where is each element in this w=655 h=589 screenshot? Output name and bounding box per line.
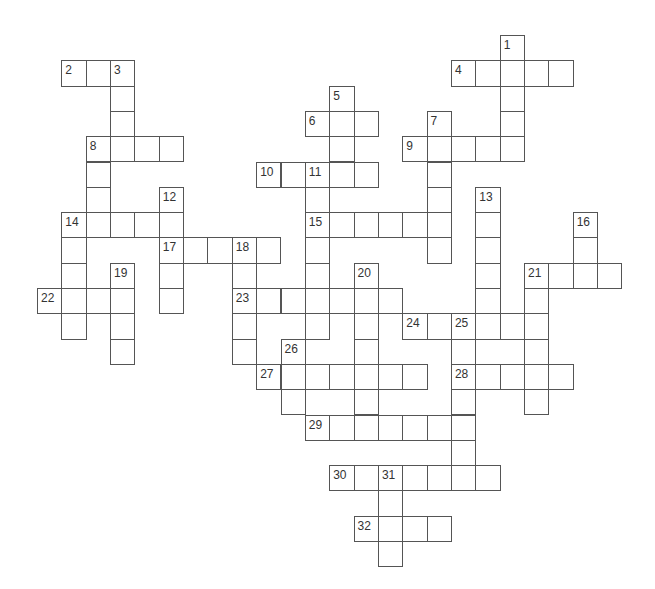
cell-letter-input[interactable]: [379, 365, 402, 389]
cell-letter-input[interactable]: [428, 213, 451, 237]
crossword-cell[interactable]: 25: [451, 313, 476, 339]
cell-letter-input[interactable]: [476, 264, 499, 288]
crossword-cell[interactable]: 31: [378, 465, 403, 491]
cell-letter-input[interactable]: [111, 213, 134, 237]
cell-letter-input[interactable]: [87, 163, 110, 187]
cell-letter-input[interactable]: [549, 365, 572, 389]
cell-letter-input[interactable]: [111, 87, 134, 111]
crossword-cell[interactable]: 11: [305, 162, 330, 188]
crossword-cell[interactable]: [500, 364, 525, 390]
cell-letter-input[interactable]: [87, 137, 110, 161]
crossword-cell[interactable]: [281, 288, 306, 314]
cell-letter-input[interactable]: [428, 188, 451, 212]
crossword-cell[interactable]: [500, 111, 525, 137]
cell-letter-input[interactable]: [476, 137, 499, 161]
cell-letter-input[interactable]: [111, 61, 134, 85]
cell-letter-input[interactable]: [574, 213, 597, 237]
cell-letter-input[interactable]: [598, 264, 621, 288]
crossword-cell[interactable]: [110, 136, 135, 162]
crossword-cell[interactable]: 27: [256, 364, 281, 390]
crossword-cell[interactable]: [61, 313, 86, 339]
cell-letter-input[interactable]: [306, 289, 329, 313]
crossword-cell[interactable]: [329, 212, 354, 238]
crossword-cell[interactable]: [61, 288, 86, 314]
crossword-cell[interactable]: [402, 415, 427, 441]
crossword-cell[interactable]: [427, 162, 452, 188]
cell-letter-input[interactable]: [476, 314, 499, 338]
cell-letter-input[interactable]: [403, 365, 426, 389]
crossword-cell[interactable]: [427, 465, 452, 491]
cell-letter-input[interactable]: [501, 36, 524, 60]
crossword-cell[interactable]: [451, 389, 476, 415]
crossword-cell[interactable]: [61, 237, 86, 263]
crossword-cell[interactable]: [378, 516, 403, 542]
cell-letter-input[interactable]: [330, 163, 353, 187]
cell-letter-input[interactable]: [428, 137, 451, 161]
crossword-cell[interactable]: [524, 313, 549, 339]
cell-letter-input[interactable]: [330, 87, 353, 111]
crossword-cell[interactable]: 13: [475, 187, 500, 213]
cell-letter-input[interactable]: [135, 137, 158, 161]
crossword-cell[interactable]: [475, 212, 500, 238]
cell-letter-input[interactable]: [282, 390, 305, 414]
crossword-cell[interactable]: [451, 415, 476, 441]
cell-letter-input[interactable]: [306, 365, 329, 389]
crossword-cell[interactable]: [378, 364, 403, 390]
crossword-cell[interactable]: [207, 237, 232, 263]
crossword-cell[interactable]: [378, 288, 403, 314]
cell-letter-input[interactable]: [501, 112, 524, 136]
cell-letter-input[interactable]: [379, 517, 402, 541]
crossword-cell[interactable]: [329, 111, 354, 137]
crossword-cell[interactable]: 3: [110, 60, 135, 86]
cell-letter-input[interactable]: [549, 61, 572, 85]
cell-letter-input[interactable]: [87, 61, 110, 85]
crossword-cell[interactable]: [86, 288, 111, 314]
cell-letter-input[interactable]: [355, 466, 378, 490]
crossword-cell[interactable]: [500, 86, 525, 112]
crossword-cell[interactable]: [475, 136, 500, 162]
cell-letter-input[interactable]: [184, 238, 207, 262]
crossword-cell[interactable]: [354, 415, 379, 441]
cell-letter-input[interactable]: [160, 238, 183, 262]
crossword-cell[interactable]: [500, 136, 525, 162]
crossword-cell[interactable]: 30: [329, 465, 354, 491]
cell-letter-input[interactable]: [379, 416, 402, 440]
cell-letter-input[interactable]: [160, 213, 183, 237]
crossword-cell[interactable]: 16: [573, 212, 598, 238]
cell-letter-input[interactable]: [525, 289, 548, 313]
crossword-cell[interactable]: [548, 60, 573, 86]
cell-letter-input[interactable]: [476, 61, 499, 85]
crossword-cell[interactable]: [427, 237, 452, 263]
crossword-cell[interactable]: [354, 111, 379, 137]
crossword-cell[interactable]: [475, 60, 500, 86]
cell-letter-input[interactable]: [111, 289, 134, 313]
cell-letter-input[interactable]: [257, 365, 280, 389]
cell-letter-input[interactable]: [355, 416, 378, 440]
crossword-cell[interactable]: [451, 339, 476, 365]
cell-letter-input[interactable]: [476, 238, 499, 262]
crossword-cell[interactable]: [305, 237, 330, 263]
cell-letter-input[interactable]: [428, 314, 451, 338]
crossword-cell[interactable]: [475, 313, 500, 339]
cell-letter-input[interactable]: [257, 289, 280, 313]
crossword-cell[interactable]: [354, 288, 379, 314]
crossword-cell[interactable]: [256, 237, 281, 263]
cell-letter-input[interactable]: [428, 466, 451, 490]
crossword-cell[interactable]: [110, 212, 135, 238]
cell-letter-input[interactable]: [62, 314, 85, 338]
crossword-cell[interactable]: [402, 516, 427, 542]
cell-letter-input[interactable]: [403, 466, 426, 490]
crossword-cell[interactable]: 8: [86, 136, 111, 162]
cell-letter-input[interactable]: [574, 264, 597, 288]
cell-letter-input[interactable]: [208, 238, 231, 262]
crossword-cell[interactable]: [256, 288, 281, 314]
crossword-cell[interactable]: 18: [232, 237, 257, 263]
crossword-cell[interactable]: [159, 263, 184, 289]
cell-letter-input[interactable]: [428, 517, 451, 541]
crossword-cell[interactable]: [281, 162, 306, 188]
crossword-cell[interactable]: [524, 364, 549, 390]
cell-letter-input[interactable]: [306, 112, 329, 136]
cell-letter-input[interactable]: [355, 314, 378, 338]
cell-letter-input[interactable]: [62, 264, 85, 288]
cell-letter-input[interactable]: [379, 491, 402, 515]
